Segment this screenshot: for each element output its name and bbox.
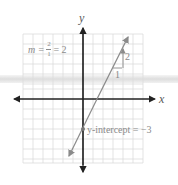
slope-annotation: m = 2 1 = 2 bbox=[28, 41, 67, 58]
x-axis-label: x bbox=[159, 93, 164, 105]
slope-fraction: 2 1 bbox=[46, 41, 51, 58]
slope-denominator: 1 bbox=[47, 51, 51, 58]
y-intercept-point bbox=[81, 127, 85, 131]
y-intercept-label: y-intercept = −3 bbox=[87, 125, 152, 135]
run-label: 1 bbox=[115, 70, 120, 80]
y-axis-label: y bbox=[79, 12, 84, 24]
slope-prefix: m = bbox=[28, 45, 44, 55]
slope-numerator: 2 bbox=[47, 41, 51, 48]
coordinate-plane bbox=[0, 0, 178, 185]
slope-suffix: = 2 bbox=[53, 45, 66, 55]
rise-label: 2 bbox=[125, 52, 130, 62]
